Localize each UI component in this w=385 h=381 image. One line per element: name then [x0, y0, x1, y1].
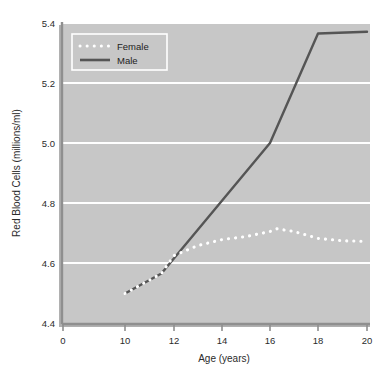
x-tick-label-12: 12 — [169, 335, 180, 346]
y-tick-label-4-8: 4.8 — [42, 198, 55, 209]
x-tick-label-18: 18 — [313, 335, 324, 346]
y-tick-label-4-4: 4.4 — [42, 318, 55, 329]
x-axis-title: Age (years) — [198, 353, 250, 364]
x-tick-label-20: 20 — [362, 335, 373, 346]
panel-banding — [62, 24, 370, 323]
y-tick-label-5-0: 5.0 — [42, 138, 55, 149]
x-tick-label-10: 10 — [120, 335, 131, 346]
y-tick-label-5-4: 5.4 — [42, 18, 55, 29]
x-tick-label-14: 14 — [217, 335, 228, 346]
legend-label-male: Male — [117, 55, 138, 66]
x-tick-label-16: 16 — [265, 335, 276, 346]
x-tick-label-0: 0 — [60, 335, 65, 346]
y-tick-label-5-2: 5.2 — [42, 78, 55, 89]
red-blood-cells-line-chart: 0 10 12 14 16 18 20 5.4 5.2 5.0 4.8 4.6 … — [0, 0, 385, 381]
y-tick-label-4-6: 4.6 — [42, 258, 55, 269]
legend-label-female: Female — [117, 41, 149, 52]
y-axis-title: Red Blood Cells (millions/ml) — [11, 109, 22, 237]
